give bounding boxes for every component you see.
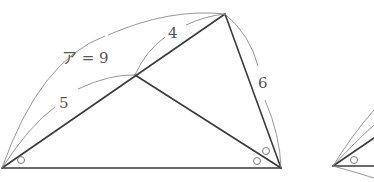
figure-1: ア = 9 4 5 6: [2, 13, 281, 168]
angle-mark: [351, 157, 358, 164]
segment-BC: [225, 14, 281, 168]
label-total-AC: ア = 9: [62, 49, 109, 67]
segment-upper: [333, 138, 374, 166]
label-DC: 4: [168, 24, 178, 42]
angle-mark-B-lower: [254, 158, 261, 165]
arc-AC-total-2: [108, 13, 225, 35]
label-BC: 6: [258, 74, 268, 92]
segment-AC: [2, 14, 225, 168]
arc-DC-2: [186, 14, 225, 25]
geometry-diagram: ア = 9 4 5 6: [0, 0, 374, 182]
arc-upper-1: [333, 110, 374, 166]
label-AD: 5: [59, 94, 69, 112]
angle-mark-B-upper: [263, 148, 270, 155]
arc-DC: [135, 37, 165, 75]
arc-lower: [333, 166, 374, 178]
figure-2-partial: [333, 110, 374, 178]
arc-upper-2: [333, 125, 374, 166]
angle-mark-A: [18, 157, 25, 164]
arc-CB-2: [265, 100, 281, 168]
